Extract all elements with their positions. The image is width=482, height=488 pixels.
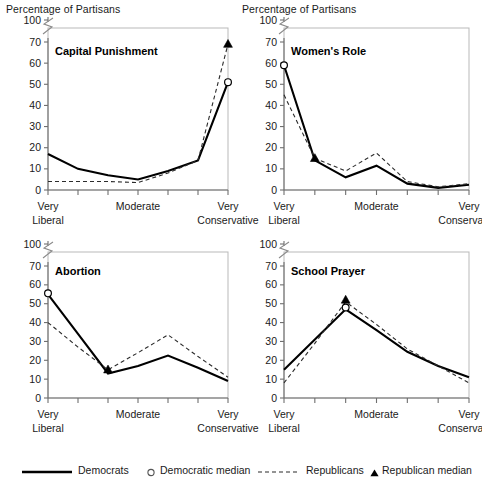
republicans-line-swatch xyxy=(258,469,300,475)
x-tick-label: Moderate xyxy=(116,200,161,212)
y-axis-caption: Percentage of Partisans xyxy=(6,3,120,15)
x-tick-label: Very xyxy=(273,408,295,420)
line-chart-svg: 010203040506070100VeryLiberalModerateVer… xyxy=(0,0,241,244)
x-tick-label: Moderate xyxy=(354,200,399,212)
y-tick-label: 20 xyxy=(265,354,277,366)
plot-title: School Prayer xyxy=(291,265,365,277)
republican-median-marker-swatch xyxy=(369,468,381,480)
y-tick-label: 20 xyxy=(29,141,41,153)
y-tick-label: 40 xyxy=(265,316,277,328)
x-tick-label: Liberal xyxy=(268,422,300,434)
line-chart-svg: 010203040506070100VeryLiberalModerateVer… xyxy=(236,0,482,244)
y-tick-label: 20 xyxy=(29,354,41,366)
y-tick-label: 100 xyxy=(259,14,277,26)
democrats-line-swatch xyxy=(22,469,72,475)
republican-median-marker xyxy=(341,295,350,303)
x-tick-label: Conservative xyxy=(438,214,482,226)
y-tick-label: 10 xyxy=(265,373,277,385)
chart-panel-abortion: Abortion 010203040506070100VeryLiberalMo… xyxy=(0,238,241,458)
y-tick-label: 100 xyxy=(23,238,41,250)
x-tick-label: Moderate xyxy=(116,408,161,420)
plot-title: Women's Role xyxy=(291,45,366,57)
republican-median-marker xyxy=(310,154,319,162)
y-tick-label: 60 xyxy=(29,57,41,69)
y-tick-label: 70 xyxy=(265,260,277,272)
x-tick-label: Liberal xyxy=(32,422,64,434)
y-tick-label: 40 xyxy=(29,99,41,111)
y-tick-label: 40 xyxy=(29,316,41,328)
y-tick-label: 20 xyxy=(265,141,277,153)
republican-median-marker xyxy=(224,40,233,48)
y-tick-label: 70 xyxy=(29,36,41,48)
y-tick-label: 60 xyxy=(265,57,277,69)
democrats-series-line xyxy=(48,82,228,179)
y-tick-label: 100 xyxy=(23,14,41,26)
chart-panel-womens-role: Percentage of Partisans Women's Role 010… xyxy=(236,0,482,244)
x-tick-label: Very xyxy=(273,200,295,212)
y-tick-label: 60 xyxy=(29,278,41,290)
y-tick-label: 60 xyxy=(265,278,277,290)
y-tick-label: 70 xyxy=(265,36,277,48)
legend-label-democrats: Democrats xyxy=(78,464,129,476)
legend-label-republican-median: Republican median xyxy=(382,464,472,476)
x-tick-label: Moderate xyxy=(354,408,399,420)
republicans-series-line xyxy=(284,95,469,187)
x-tick-label: Very xyxy=(37,200,59,212)
plot-title: Abortion xyxy=(55,265,101,277)
x-tick-label: Very xyxy=(458,408,480,420)
y-axis-caption: Percentage of Partisans xyxy=(242,3,356,15)
y-tick-label: 40 xyxy=(265,99,277,111)
y-tick-label: 30 xyxy=(29,120,41,132)
x-tick-label: Very xyxy=(458,200,480,212)
y-tick-label: 70 xyxy=(29,260,41,272)
legend-label-republicans: Republicans xyxy=(306,464,364,476)
y-tick-label: 0 xyxy=(271,184,277,196)
x-tick-label: Very xyxy=(37,408,59,420)
y-tick-label: 100 xyxy=(259,238,277,250)
democrats-series-line xyxy=(284,65,469,188)
x-tick-label: Liberal xyxy=(32,214,64,226)
y-tick-label: 30 xyxy=(265,120,277,132)
y-tick-label: 10 xyxy=(29,373,41,385)
chart-panel-school-prayer: School Prayer 010203040506070100VeryLibe… xyxy=(236,238,482,458)
democratic-median-marker xyxy=(342,304,349,311)
y-tick-label: 0 xyxy=(271,392,277,404)
plot-title: Capital Punishment xyxy=(55,45,158,57)
y-tick-label: 10 xyxy=(29,162,41,174)
y-tick-label: 0 xyxy=(35,392,41,404)
y-tick-label: 50 xyxy=(29,297,41,309)
line-chart-svg: 010203040506070100VeryLiberalModerateVer… xyxy=(0,238,241,458)
chart-panel-capital-punishment: Percentage of Partisans Capital Punishme… xyxy=(0,0,241,244)
y-tick-label: 30 xyxy=(29,335,41,347)
y-tick-label: 30 xyxy=(265,335,277,347)
figure-legend: Democrats Democratic median Republicans … xyxy=(0,455,482,488)
democratic-median-marker-swatch xyxy=(146,467,158,479)
legend-label-democratic-median: Democratic median xyxy=(160,464,250,476)
x-tick-label: Conservative xyxy=(438,422,482,434)
x-tick-label: Liberal xyxy=(268,214,300,226)
y-tick-label: 0 xyxy=(35,184,41,196)
y-tick-label: 50 xyxy=(265,297,277,309)
republicans-series-line xyxy=(48,44,228,182)
y-tick-label: 50 xyxy=(265,78,277,90)
democratic-median-marker xyxy=(45,290,52,297)
y-tick-label: 10 xyxy=(265,162,277,174)
democratic-median-marker xyxy=(225,79,232,86)
y-tick-label: 50 xyxy=(29,78,41,90)
democrats-series-line xyxy=(48,294,228,381)
democratic-median-marker xyxy=(281,62,288,69)
